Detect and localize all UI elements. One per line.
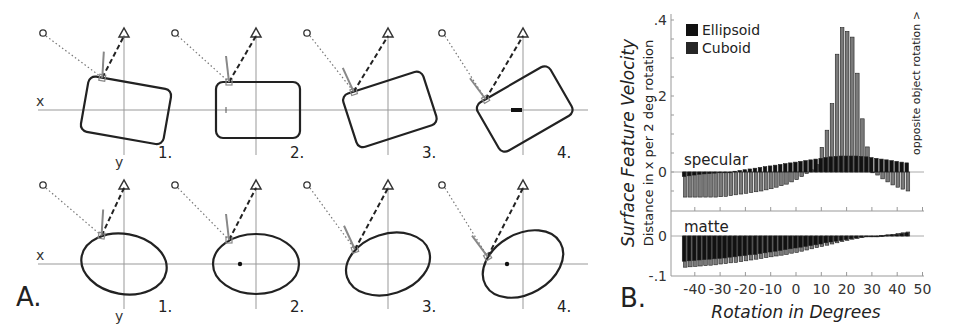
ellipsoid-bar xyxy=(718,236,722,258)
diagram-number: 1. xyxy=(158,298,172,316)
ellipsoid-bar xyxy=(849,156,853,172)
diagram-ellipsoid-4: 4. xyxy=(439,180,575,316)
ellipsoid-bar xyxy=(682,236,686,261)
ellipsoid-bar xyxy=(733,236,737,257)
ellipsoid-bar xyxy=(880,236,884,237)
ellipsoid-bar xyxy=(829,157,833,172)
cuboid-bar xyxy=(901,172,905,189)
ellipsoid-bar xyxy=(864,157,868,172)
ellipsoid-bar xyxy=(738,170,742,172)
ellipsoid-bar xyxy=(748,236,752,255)
cuboid-bar xyxy=(724,172,728,196)
ellipsoid-bar xyxy=(880,159,884,172)
ellipsoid-bar xyxy=(849,236,853,239)
ellipsoid-bar xyxy=(870,158,874,172)
legend-swatch-ellipsoid xyxy=(686,24,698,36)
ellipsoid-bar xyxy=(708,172,712,174)
view-ray xyxy=(178,188,229,240)
x-tick-label: 40 xyxy=(888,281,906,297)
ellipsoid-bar xyxy=(758,236,762,254)
cuboid-bar xyxy=(729,172,733,196)
view-ray xyxy=(46,36,102,78)
subplot-matte: -.10matte xyxy=(649,218,924,284)
center-bar xyxy=(511,108,522,112)
light-ray xyxy=(229,188,256,240)
ellipsoid-bar xyxy=(885,235,889,236)
ellipsoid-bar xyxy=(718,172,722,173)
x-tick-label: -40 xyxy=(683,281,706,297)
viewer-icon xyxy=(40,30,46,36)
cuboid-bar xyxy=(780,172,784,186)
ellipsoid-bar xyxy=(890,161,894,172)
ellipsoid-bar xyxy=(799,236,803,247)
panel-a-diagrams: x1.2.3.4.yx1.2.3.4.yA. xyxy=(0,0,600,334)
ellipsoid-bar xyxy=(753,168,757,172)
ellipsoid-bar xyxy=(723,236,727,258)
ellipsoid-bar xyxy=(748,169,752,172)
ellipsoid-bar xyxy=(824,236,828,243)
diagram-cuboid-3: 3. xyxy=(304,28,439,162)
side-note: opposite object rotation > xyxy=(910,11,923,155)
light-ray xyxy=(102,36,124,78)
y-tick-label: 0 xyxy=(658,228,667,244)
ellipsoid-bar xyxy=(728,236,732,257)
cuboid-bar xyxy=(850,37,854,172)
ellipsoid-bar xyxy=(743,170,747,172)
ellipsoid-bar xyxy=(824,158,828,172)
light-ray xyxy=(355,188,388,250)
ellipsoid-bar xyxy=(753,236,757,254)
view-ray xyxy=(178,36,229,82)
light-ray xyxy=(229,36,256,82)
ellipsoid-bar xyxy=(839,156,843,172)
x-tick-label: 30 xyxy=(863,281,881,297)
surface-normal xyxy=(343,68,354,92)
viewer-icon xyxy=(439,182,445,188)
viewer-icon xyxy=(172,30,178,36)
viewer-icon xyxy=(439,30,445,36)
ellipsoid-bar xyxy=(723,172,727,173)
diagram-cuboid-2: 2. xyxy=(172,28,305,162)
x-axis-label: x xyxy=(36,93,44,109)
ellipsoid-bar xyxy=(859,236,863,237)
ellipsoid-bar xyxy=(854,236,858,238)
cuboid-bar xyxy=(749,172,753,193)
ellipsoid-bar xyxy=(819,236,823,244)
ellipsoid-bar xyxy=(687,172,691,176)
ellipsoid-bar xyxy=(703,236,707,260)
ellipsoid-bar xyxy=(708,236,712,259)
y-tick-label: .4 xyxy=(654,12,667,28)
viewer-icon xyxy=(304,182,310,188)
ellipsoid-bar xyxy=(809,236,813,246)
cuboid-bar xyxy=(845,31,849,172)
ellipsoid-bar xyxy=(905,163,909,172)
ellipsoid-bar xyxy=(900,234,904,236)
ellipsoid-bar xyxy=(834,236,838,241)
cuboid-bar xyxy=(734,172,738,195)
legend: EllipsoidCuboid xyxy=(686,22,760,56)
light-ray xyxy=(488,188,523,257)
diagram-cuboid-1: 1. xyxy=(40,28,173,162)
cuboid-bar xyxy=(785,172,789,184)
ellipsoid-bar xyxy=(819,158,823,172)
cuboid-bar xyxy=(754,172,758,192)
ellipsoid-bar xyxy=(778,236,782,250)
x-tick-label: -30 xyxy=(709,281,732,297)
view-ray xyxy=(310,188,355,250)
view-ray xyxy=(46,188,102,236)
diagram-number: 4. xyxy=(557,144,571,162)
panel-b-label: B. xyxy=(620,283,646,313)
x-tick-label: -10 xyxy=(759,281,782,297)
ellipsoid-bar xyxy=(859,156,863,172)
diagram-number: 4. xyxy=(557,298,571,316)
cuboid-bar xyxy=(719,172,723,197)
ellipsoid-bar xyxy=(890,235,894,236)
ellipsoid-bar xyxy=(875,236,879,237)
x-tick-label: 50 xyxy=(914,281,932,297)
cuboid-bar xyxy=(886,172,890,182)
cuboid-shape xyxy=(474,64,575,154)
subplot-specular: 0.2.4specular xyxy=(654,12,924,197)
diagram-ellipsoid-2: 2. xyxy=(172,180,305,316)
ellipsoid-bar xyxy=(758,167,762,172)
diagram-number: 2. xyxy=(290,144,304,162)
ellipsoid-bar xyxy=(783,164,787,172)
